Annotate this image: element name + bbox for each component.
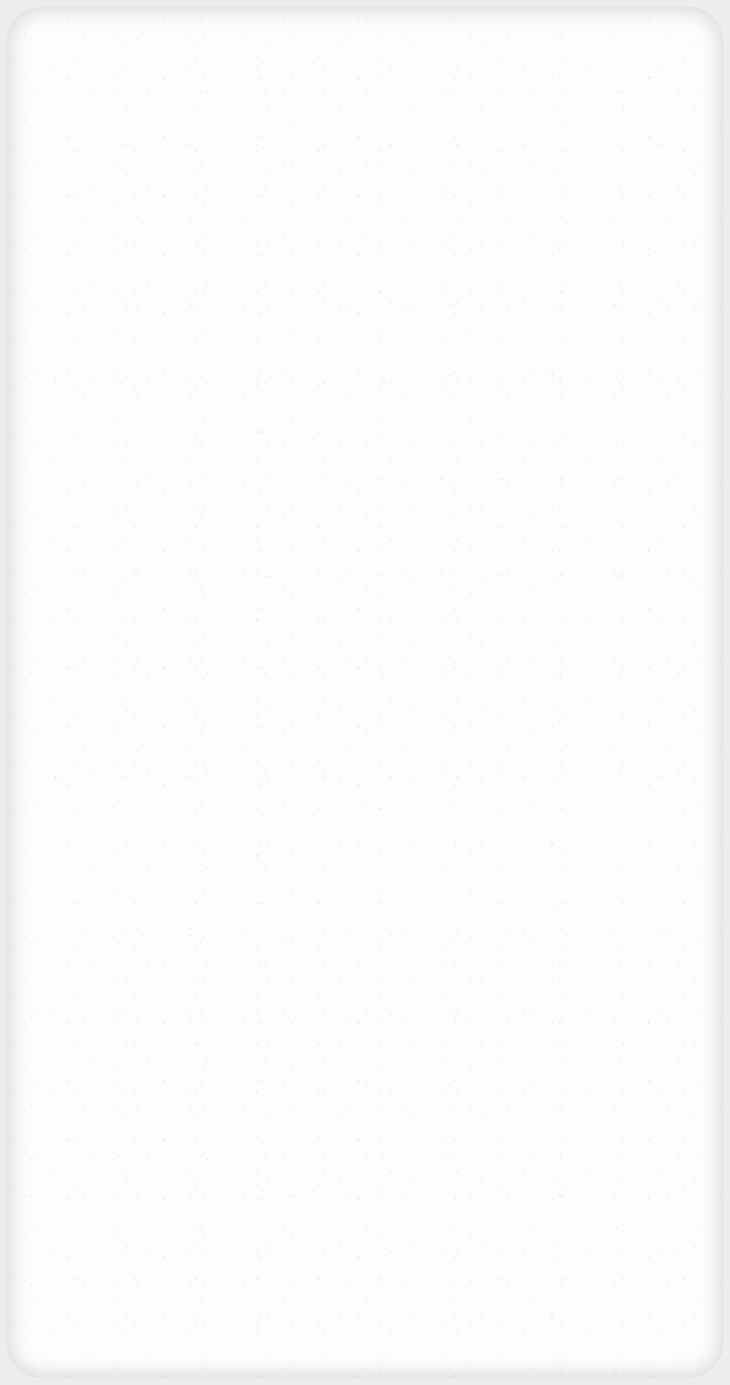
screen-frame	[0, 0, 730, 1385]
speckle-texture	[6, 6, 724, 1379]
blank-surface	[6, 6, 724, 1379]
